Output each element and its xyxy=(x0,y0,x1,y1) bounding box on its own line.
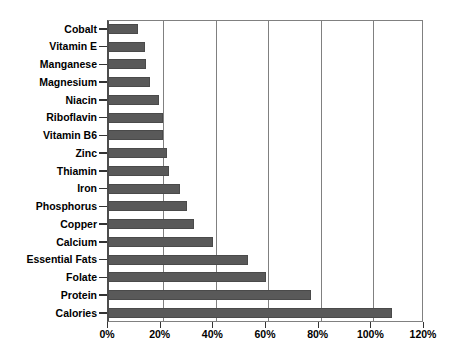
y-axis-tick-mark xyxy=(99,312,107,314)
x-axis-tick-label: 20% xyxy=(149,328,170,340)
y-axis-tick: Protein xyxy=(0,286,107,304)
y-axis-tick: Cobalt xyxy=(0,20,107,38)
y-axis-tick: Thiamin xyxy=(0,162,107,180)
y-axis-tick-label: Phosphorus xyxy=(36,201,99,212)
y-axis-tick-label: Vitamin E xyxy=(49,41,99,52)
y-axis-tick: Vitamin E xyxy=(0,38,107,56)
bar-row xyxy=(108,73,423,91)
bar xyxy=(108,113,163,123)
bars-layer xyxy=(108,20,423,322)
bar xyxy=(108,166,169,176)
bar-row xyxy=(108,198,423,216)
bar-row xyxy=(108,286,423,304)
bar xyxy=(108,201,187,211)
y-axis-tick: Manganese xyxy=(0,56,107,74)
y-axis-tick-mark xyxy=(99,241,107,243)
bar-chart: CobaltVitamin EManganeseMagnesiumNiacinR… xyxy=(0,0,463,356)
y-axis-tick-label: Riboflavin xyxy=(46,112,99,123)
x-axis-tick-label: 0% xyxy=(99,328,114,340)
x-axis-tick-mark xyxy=(370,322,371,328)
bar-row xyxy=(108,304,423,322)
y-axis-tick-label: Calories xyxy=(56,308,99,319)
bar xyxy=(108,237,213,247)
y-axis-tick-mark xyxy=(99,188,107,190)
y-axis-tick-label: Vitamin B6 xyxy=(43,130,99,141)
bar-row xyxy=(108,162,423,180)
y-axis-tick-label: Copper xyxy=(60,219,99,230)
y-axis-tick: Iron xyxy=(0,180,107,198)
x-axis-tick-mark xyxy=(265,322,266,328)
y-axis-tick-label: Niacin xyxy=(65,95,99,106)
bar xyxy=(108,219,194,229)
bar-row xyxy=(108,20,423,38)
y-axis-tick-mark xyxy=(99,206,107,208)
bar-row xyxy=(108,251,423,269)
bar xyxy=(108,42,145,52)
x-axis-tick-label: 40% xyxy=(202,328,223,340)
y-axis-tick: Niacin xyxy=(0,91,107,109)
y-axis-tick: Magnesium xyxy=(0,73,107,91)
bar xyxy=(108,77,150,87)
y-axis-tick-mark xyxy=(99,259,107,261)
bar xyxy=(108,59,146,69)
bar-row xyxy=(108,269,423,287)
y-axis-tick-label: Calcium xyxy=(56,237,99,248)
bar xyxy=(108,308,392,318)
y-axis-tick-mark xyxy=(99,152,107,154)
y-axis-tick-label: Essential Fats xyxy=(26,254,99,265)
bar-row xyxy=(108,180,423,198)
x-axis-tick-label: 120% xyxy=(410,328,437,340)
y-axis-tick-label: Protein xyxy=(61,290,99,301)
bar xyxy=(108,184,180,194)
y-axis-tick-mark xyxy=(99,135,107,137)
y-axis-tick-label: Folate xyxy=(66,272,99,283)
y-axis-labels: CobaltVitamin EManganeseMagnesiumNiacinR… xyxy=(0,20,107,322)
x-axis-tick-mark xyxy=(160,322,161,328)
bar xyxy=(108,290,311,300)
y-axis-tick-label: Thiamin xyxy=(57,166,99,177)
x-axis-tick-label: 100% xyxy=(357,328,384,340)
y-axis-tick-mark xyxy=(99,170,107,172)
bar xyxy=(108,148,167,158)
y-axis-tick-mark xyxy=(99,81,107,83)
y-axis-tick-label: Cobalt xyxy=(64,24,99,35)
y-axis-tick-label: Manganese xyxy=(40,59,99,70)
y-axis-tick: Calories xyxy=(0,304,107,322)
y-axis-tick: Riboflavin xyxy=(0,109,107,127)
bar xyxy=(108,255,248,265)
x-axis-tick-mark xyxy=(318,322,319,328)
y-axis-tick-label: Iron xyxy=(77,183,99,194)
y-axis-tick-mark xyxy=(99,223,107,225)
y-axis-tick: Calcium xyxy=(0,233,107,251)
bar-row xyxy=(108,144,423,162)
bar xyxy=(108,95,159,105)
bar-row xyxy=(108,127,423,145)
bar-row xyxy=(108,38,423,56)
y-axis-tick-label: Magnesium xyxy=(39,77,99,88)
y-axis-tick-mark xyxy=(99,64,107,66)
x-axis-labels: 0%20%40%60%80%100%120% xyxy=(0,328,463,348)
bar-row xyxy=(108,91,423,109)
y-axis-tick: Phosphorus xyxy=(0,198,107,216)
bar-row xyxy=(108,109,423,127)
y-axis-tick-label: Zinc xyxy=(75,148,99,159)
y-axis-tick-mark xyxy=(99,277,107,279)
y-axis-tick-mark xyxy=(99,46,107,48)
bar xyxy=(108,130,163,140)
y-axis-tick: Essential Fats xyxy=(0,251,107,269)
bar xyxy=(108,24,138,34)
bar xyxy=(108,272,266,282)
x-axis-tick-label: 80% xyxy=(307,328,328,340)
x-axis-tick-mark xyxy=(423,322,424,328)
y-axis-tick-mark xyxy=(99,294,107,296)
y-axis-tick-mark xyxy=(99,117,107,119)
y-axis-tick-mark xyxy=(99,28,107,30)
y-axis-tick-mark xyxy=(99,99,107,101)
y-axis-tick: Folate xyxy=(0,269,107,287)
y-axis-tick: Copper xyxy=(0,215,107,233)
y-axis-tick: Vitamin B6 xyxy=(0,127,107,145)
x-axis-tick-mark xyxy=(212,322,213,328)
x-axis-tick-mark xyxy=(107,322,108,328)
bar-row xyxy=(108,233,423,251)
y-axis-tick: Zinc xyxy=(0,144,107,162)
